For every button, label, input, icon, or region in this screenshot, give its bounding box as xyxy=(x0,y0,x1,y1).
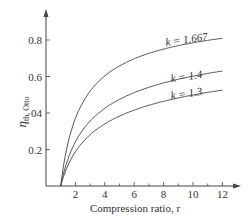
x-tick-label: 10 xyxy=(188,188,200,200)
series-label: k = 1.667 xyxy=(165,30,209,48)
y-tick-label: 0.2 xyxy=(28,144,42,156)
axes: 246810120.2040.60.8 xyxy=(28,9,241,200)
x-tick-label: 2 xyxy=(73,188,79,200)
y-axis-label: ηth, Otto xyxy=(14,97,31,128)
x-tick-label: 4 xyxy=(102,188,108,200)
x-tick-label: 12 xyxy=(217,188,228,200)
series-label: k = 1.4 xyxy=(170,68,203,84)
y-axis-arrow-icon xyxy=(44,9,49,17)
series-line xyxy=(61,90,223,186)
x-tick-label: 6 xyxy=(131,188,137,200)
x-tick-label: 8 xyxy=(161,188,167,200)
x-axis-label: Compression ratio, r xyxy=(90,202,180,214)
x-axis-arrow-icon xyxy=(233,184,241,189)
y-tick-label: 0.8 xyxy=(28,34,42,46)
curves: k = 1.667k = 1.4k = 1.3 xyxy=(61,30,223,186)
series-label: k = 1.3 xyxy=(170,85,203,101)
chart: 246810120.2040.60.8 k = 1.667k = 1.4k = … xyxy=(0,0,250,223)
series-line xyxy=(61,38,223,186)
y-tick-label: 0.6 xyxy=(28,71,42,83)
y-tick-label: 04 xyxy=(31,107,43,119)
